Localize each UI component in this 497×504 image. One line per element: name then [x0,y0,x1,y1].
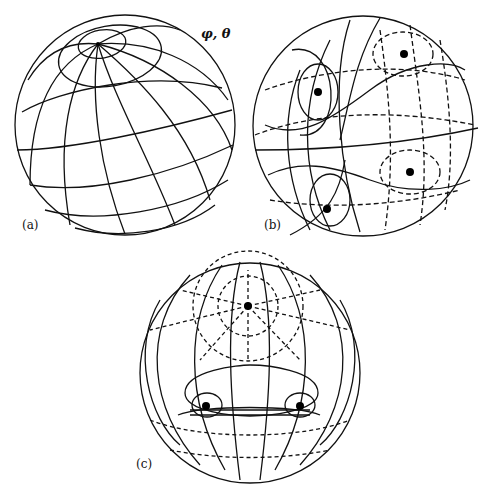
panel-label-b: (b) [264,218,281,232]
singular-point-b1 [314,88,322,96]
panel-label-a: (a) [22,218,39,232]
coordinate-annotation: φ, θ [201,26,231,41]
figure-canvas [0,0,497,504]
singular-point-b2 [400,50,408,58]
sphere-c [140,251,360,483]
singular-point-b3 [406,168,414,176]
singular-point-b4 [323,205,331,213]
singular-point-c1 [202,402,210,410]
pole-point-a [96,42,100,46]
sphere-b [253,16,478,236]
sphere-a [15,15,235,235]
pole-point-c [244,302,252,310]
singular-point-c2 [296,402,304,410]
panel-label-c: (c) [136,457,152,471]
